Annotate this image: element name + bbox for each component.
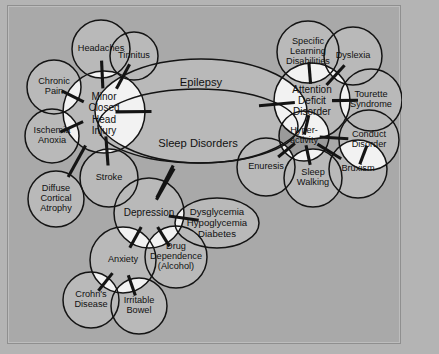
label-tinnitus: Tinnitus (118, 50, 150, 60)
label-tourette: TouretteSyndrome (350, 89, 392, 109)
label-hyperactivity: Hyper-activity (290, 125, 318, 145)
label-enuresis: Enuresis (248, 161, 284, 171)
label-stroke: Stroke (96, 172, 123, 182)
label-add: AttentionDeficitDisorder (292, 83, 331, 117)
label-irritable: IrritableBowel (124, 295, 155, 315)
node-bodies (25, 20, 402, 334)
label-ischemia: IschemiaAnoxia (34, 125, 72, 145)
label-dyslexia: Dyslexia (336, 50, 372, 60)
label-depression: Depression (124, 207, 175, 218)
label-sld: SpecificLearningDisabilities (286, 36, 330, 67)
label-crohns: Crohn'sDisease (74, 289, 107, 309)
label-sleep-disorders: Sleep Disorders (158, 137, 238, 149)
label-bruxism: Bruxism (341, 163, 375, 173)
comorbidity-venn-diagram: HeadachesTinnitusChronicPainIschemiaAnox… (8, 6, 402, 345)
label-conduct: ConductDisorder (352, 129, 387, 149)
diagram-frame: HeadachesTinnitusChronicPainIschemiaAnox… (7, 5, 401, 344)
label-diffuse: DiffuseCorticalAtrophy (40, 183, 72, 214)
label-epilepsy: Epilepsy (180, 76, 223, 88)
figure-stage: HeadachesTinnitusChronicPainIschemiaAnox… (0, 0, 439, 354)
label-anxiety: Anxiety (108, 254, 139, 264)
label-sleep-walking: SleepWalking (297, 167, 329, 187)
link-headaches-mchi (102, 61, 103, 89)
label-mchi: MinorClosedHeadInjury (88, 91, 119, 136)
